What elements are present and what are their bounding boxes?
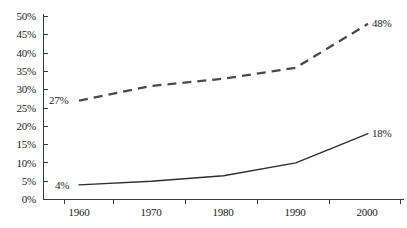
x-tick-label-1970: 1970 — [128, 207, 174, 218]
chart-plot-area — [0, 0, 407, 228]
y-tick-label-45: 45% — [2, 29, 36, 40]
y-tick-label-20: 20% — [2, 121, 36, 132]
y-tick-label-10: 10% — [2, 158, 36, 169]
data-label-upper-start: 27% — [49, 95, 69, 106]
y-axis-ticks — [44, 17, 48, 200]
x-tick-label-1990: 1990 — [272, 207, 318, 218]
data-label-lower-end: 18% — [372, 128, 392, 139]
data-label-upper-end: 48% — [372, 18, 392, 29]
x-tick-label-1980: 1980 — [200, 207, 246, 218]
y-tick-label-50: 50% — [2, 11, 36, 22]
y-tick-label-25: 25% — [2, 103, 36, 114]
y-tick-label-30: 30% — [2, 84, 36, 95]
line-chart: 50% 45% 40% 35% 30% 25% 20% 15% 10% 5% 0… — [0, 0, 407, 228]
y-tick-label-40: 40% — [2, 48, 36, 59]
y-tick-label-5: 5% — [2, 176, 36, 187]
data-label-lower-start: 4% — [55, 180, 69, 191]
series-lower-solid — [79, 134, 368, 185]
y-tick-label-35: 35% — [2, 66, 36, 77]
x-tick-label-1960: 1960 — [56, 207, 102, 218]
x-axis-ticks — [65, 200, 401, 205]
series-upper-dashed — [79, 24, 368, 101]
y-tick-label-0: 0% — [2, 194, 36, 205]
x-tick-label-1950: 2000 — [344, 207, 390, 218]
y-tick-label-15: 15% — [2, 139, 36, 150]
